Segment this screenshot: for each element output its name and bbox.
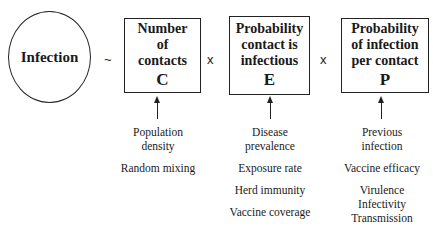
number-of-contacts-box: Number of contacts C	[124, 18, 201, 93]
box-title-line: Probability	[351, 21, 418, 37]
box-symbol: P	[380, 70, 390, 90]
multiply-operator: x	[207, 52, 214, 67]
box-title-line: Number	[138, 21, 188, 37]
determinant-item: Exposure rate	[218, 161, 322, 175]
box-symbol: E	[264, 70, 275, 90]
determinant-item: Vaccine coverage	[218, 205, 322, 219]
determinant-item: Random mixing	[112, 161, 204, 175]
infection-ellipse: Infection	[8, 11, 91, 103]
proportional-operator: ~	[104, 52, 112, 67]
infection-label: Infection	[21, 49, 79, 66]
determinant-item: Disease prevalence	[218, 125, 322, 153]
determinant-item: Herd immunity	[218, 183, 322, 197]
up-arrow-icon	[270, 102, 271, 119]
box-title-line: Probability	[236, 21, 303, 37]
determinant-item: Previous infection	[331, 125, 433, 153]
contacts-determinants: Population density Random mixing	[112, 125, 204, 183]
box-title-line: infectious	[241, 53, 299, 69]
probability-infection-per-contact-box: Probability of infection per contact P	[341, 18, 429, 93]
determinant-item: Vaccine efficacy	[331, 161, 433, 175]
box-title-line: contacts	[138, 53, 187, 69]
multiply-operator: x	[320, 52, 327, 67]
box-title-line: contact is	[241, 37, 297, 53]
box-title-line: of infection	[351, 37, 418, 53]
infectious-determinants: Disease prevalence Exposure rate Herd im…	[218, 125, 322, 227]
up-arrow-icon	[381, 102, 382, 119]
probability-contact-infectious-box: Probability contact is infectious E	[229, 16, 310, 95]
box-symbol: C	[156, 70, 168, 90]
up-arrow-icon	[157, 102, 158, 119]
box-title-line: per contact	[352, 53, 419, 69]
determinant-item: Population density	[112, 125, 204, 153]
box-title-line: of	[157, 37, 169, 53]
per-contact-determinants: Previous infection Vaccine efficacy Viru…	[331, 125, 433, 228]
determinant-item: Virulence Infectivity Transmission	[331, 183, 433, 225]
